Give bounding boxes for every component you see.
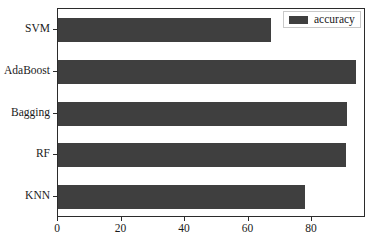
y-tick-mark-knn — [53, 196, 57, 197]
y-tick-label-rf: RF — [36, 148, 50, 160]
y-tick-label-knn: KNN — [25, 190, 50, 202]
x-tick-mark-80 — [311, 217, 312, 221]
x-tick-label-0: 0 — [54, 223, 60, 235]
x-tick-label-40: 40 — [178, 223, 190, 235]
legend-swatch-accuracy — [289, 16, 308, 24]
y-tick-mark-svm — [53, 29, 57, 30]
x-tick-label-80: 80 — [305, 223, 317, 235]
x-tick-mark-20 — [121, 217, 122, 221]
y-tick-label-svm: SVM — [25, 23, 50, 35]
x-tick-label-20: 20 — [115, 223, 127, 235]
bar-bagging — [58, 102, 347, 126]
x-tick-mark-60 — [248, 217, 249, 221]
y-tick-label-adaboost: AdaBoost — [4, 65, 50, 77]
legend: accuracy — [283, 11, 361, 28]
y-tick-mark-bagging — [53, 113, 57, 114]
plot-area — [57, 8, 365, 217]
x-tick-label-60: 60 — [242, 223, 254, 235]
y-tick-mark-adaboost — [53, 71, 57, 72]
x-tick-mark-40 — [184, 217, 185, 221]
bar-svm — [58, 18, 271, 42]
legend-label-accuracy: accuracy — [314, 14, 355, 26]
y-tick-mark-rf — [53, 154, 57, 155]
bar-chart-figure: SVMAdaBoostBaggingRFKNN 020406080 accura… — [0, 0, 381, 249]
bar-adaboost — [58, 60, 356, 84]
bar-rf — [58, 143, 346, 167]
bar-knn — [58, 185, 305, 209]
x-tick-mark-0 — [57, 217, 58, 221]
y-tick-label-bagging: Bagging — [11, 107, 50, 119]
